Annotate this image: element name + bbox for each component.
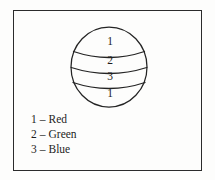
legend-label-red: Red: [49, 113, 68, 125]
legend-label-blue: Blue: [49, 143, 71, 155]
figure-panel: 1 2 3 1 1 – Red 2 – Green 3 – Blue: [0, 0, 215, 180]
legend-item-blue: 3 – Blue: [31, 143, 171, 158]
sphere-band-label-4: 1: [100, 88, 120, 100]
legend: 1 – Red 2 – Green 3 – Blue: [31, 113, 171, 158]
legend-label-green: Green: [49, 128, 77, 140]
legend-item-red: 1 – Red: [31, 113, 171, 128]
legend-dash-1: –: [37, 113, 49, 125]
sphere-band-label-1: 1: [100, 36, 120, 48]
legend-item-green: 2 – Green: [31, 128, 171, 143]
legend-dash-3: –: [37, 143, 49, 155]
sphere-band-label-2: 2: [100, 55, 120, 67]
sphere-band-label-3: 3: [100, 71, 120, 83]
sphere-diagram: 1 2 3 1: [70, 26, 150, 108]
legend-dash-2: –: [37, 128, 49, 140]
